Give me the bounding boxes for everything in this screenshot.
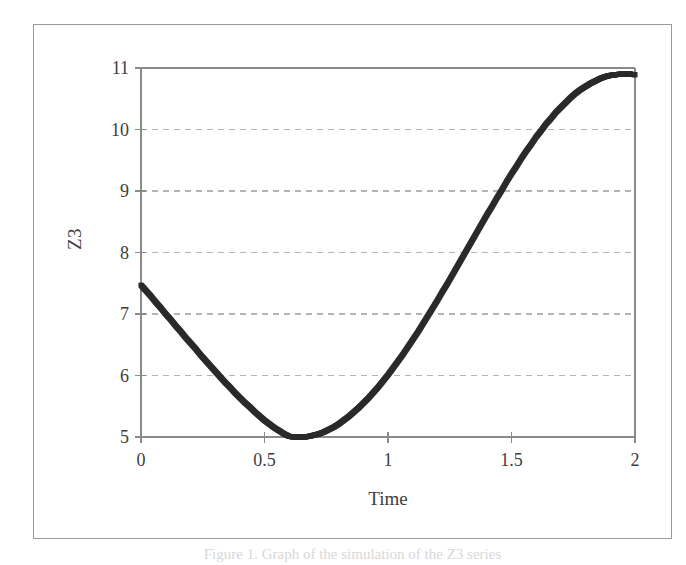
x-tick-label-0: 0 [119, 451, 163, 469]
y-tick-label-5: 5 [95, 428, 129, 446]
ticks-group [135, 68, 635, 443]
y-tick-label-8: 8 [95, 244, 129, 262]
x-axis-title: Time [141, 488, 635, 510]
y-tick-label-7: 7 [95, 305, 129, 323]
x-tick-label-1: 1 [366, 451, 410, 469]
y-tick-label-9: 9 [95, 182, 129, 200]
y-tick-label-6: 6 [95, 367, 129, 385]
y-axis-title: Z3 [64, 204, 86, 274]
x-tick-label-2: 2 [613, 451, 657, 469]
data-series-z3 [139, 72, 638, 440]
figure-caption: Figure 1. Graph of the simulation of the… [33, 546, 672, 563]
y-tick-label-10: 10 [95, 121, 129, 139]
figure-root: Z3 Time 111098765 00.511.52 Figure 1. Gr… [0, 0, 686, 565]
plot-canvas [0, 0, 686, 565]
x-tick-label-1.5: 1.5 [490, 451, 534, 469]
y-tick-label-11: 11 [95, 59, 129, 77]
gridlines-group [141, 130, 635, 376]
x-tick-label-0.5: 0.5 [243, 451, 287, 469]
